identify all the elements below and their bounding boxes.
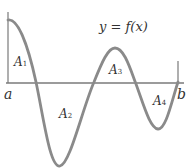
region-label-a1: A1 [14,56,27,68]
x-axis-label-a: a [4,87,12,101]
function-label: y = f(x) [99,20,148,33]
graph [0,0,192,168]
region-label-a2: A2 [59,108,72,120]
region-label-a3: A3 [109,64,122,76]
function-curve [8,20,178,166]
x-axis-label-b: b [177,87,186,101]
region-label-a4: A4 [153,95,166,107]
